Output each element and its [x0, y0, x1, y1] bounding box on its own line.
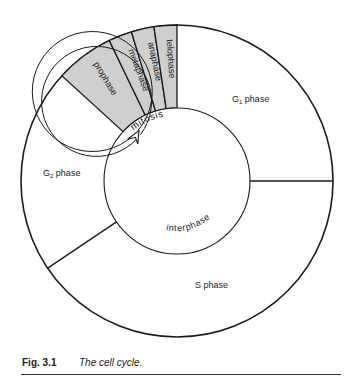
g2-phase-label: G2 phase	[43, 168, 80, 179]
figure-number: Fig. 3.1	[22, 357, 56, 368]
g1-phase-label: G1 phase	[232, 94, 269, 105]
cell-cycle-diagram: prophase metaphase anaphase telophase G1…	[0, 0, 355, 390]
figure-caption: Fig. 3.1 The cell cycle.	[21, 354, 341, 375]
s-phase-label: S phase	[195, 280, 228, 290]
figure-title: The cell cycle.	[79, 357, 142, 368]
